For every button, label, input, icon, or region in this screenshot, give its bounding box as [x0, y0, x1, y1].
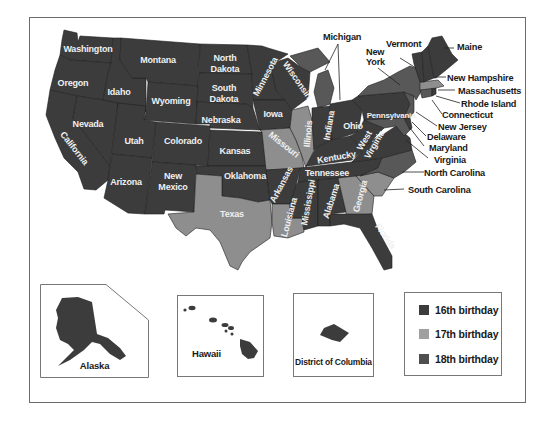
- callout-maryland: Maryland: [429, 143, 468, 153]
- label-pennsylvania: Pennsylvania: [367, 111, 416, 120]
- legend-label-17th: 17th birthday: [435, 328, 498, 340]
- legend-item-16th: 16th birthday: [419, 304, 498, 316]
- callout-maine: Maine: [457, 42, 482, 52]
- label-ohio: Ohio: [343, 121, 363, 131]
- label-utah: Utah: [124, 136, 143, 146]
- label-north-dakota-2: Dakota: [211, 64, 241, 74]
- callout-delaware: Delaware: [427, 132, 466, 142]
- callout-south-carolina: South Carolina: [408, 185, 472, 195]
- alaska-label: Alaska: [40, 360, 149, 371]
- label-new-mexico-2: Mexico: [158, 182, 188, 192]
- callout-rhode-island: Rhode Island: [461, 99, 516, 109]
- callout-massachusetts: Massachusetts: [458, 86, 521, 96]
- callout-north-carolina: North Carolina: [424, 168, 486, 178]
- label-washington: Washington: [63, 44, 112, 54]
- callout-new-york-1: New: [366, 47, 385, 57]
- callout-connecticut: Connecticut: [442, 110, 493, 120]
- inset-alaska: Alaska: [40, 284, 149, 378]
- dc-label: District of Columbia: [294, 357, 373, 367]
- label-nebraska: Nebraska: [202, 115, 242, 125]
- label-montana: Montana: [140, 55, 177, 65]
- legend-swatch-17th: [419, 329, 429, 339]
- label-new-mexico-1: New: [164, 171, 183, 181]
- label-nevada: Nevada: [73, 119, 105, 129]
- legend-swatch-16th: [419, 305, 429, 315]
- inset-dc: District of Columbia: [293, 293, 374, 377]
- callout-new-jersey: New Jersey: [438, 122, 488, 132]
- label-oklahoma: Oklahoma: [224, 171, 267, 181]
- label-kansas: Kansas: [220, 146, 251, 156]
- label-texas: Texas: [220, 209, 244, 219]
- hawaii-shape-icon[interactable]: [178, 296, 265, 378]
- label-arizona: Arizona: [110, 177, 143, 187]
- callout-virginia: Virginia: [434, 155, 467, 165]
- label-iowa: Iowa: [263, 109, 283, 119]
- inset-hawaii: Hawaii: [177, 295, 264, 377]
- label-colorado: Colorado: [164, 136, 203, 146]
- callout-michigan: Michigan: [323, 32, 362, 42]
- legend-label-18th: 18th birthday: [435, 353, 498, 365]
- label-tennessee: Tennessee: [305, 168, 349, 178]
- label-wyoming: Wyoming: [152, 96, 191, 106]
- callout-new-hampshire: New Hampshire: [447, 73, 513, 83]
- label-idaho: Idaho: [108, 87, 132, 97]
- state-rhode-island[interactable]: [432, 88, 436, 96]
- label-north-dakota-1: North: [214, 53, 237, 63]
- label-oregon: Oregon: [58, 78, 89, 88]
- hawaii-label: Hawaii: [164, 348, 249, 359]
- label-south-dakota-2: Dakota: [210, 94, 240, 104]
- legend-item-17th: 17th birthday: [419, 328, 498, 340]
- legend-label-16th: 16th birthday: [435, 304, 498, 316]
- label-south-dakota-1: South: [212, 83, 237, 93]
- legend-swatch-18th: [419, 354, 429, 364]
- callout-vermont: Vermont: [386, 39, 421, 49]
- legend-item-18th: 18th birthday: [419, 353, 498, 365]
- legend: 16th birthday 17th birthday 18th birthda…: [404, 292, 502, 376]
- callout-new-york-2: York: [366, 57, 386, 67]
